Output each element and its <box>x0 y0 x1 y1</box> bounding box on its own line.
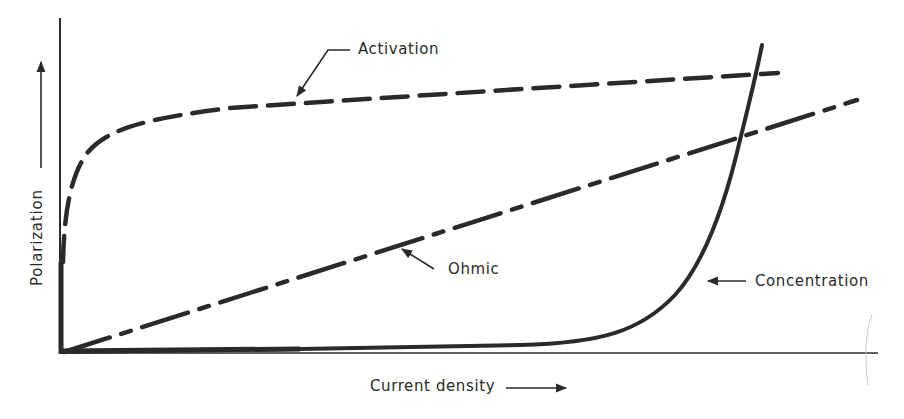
ohmic-pointer-arrow-icon <box>402 249 434 269</box>
concentration-label: Concentration <box>755 272 869 290</box>
x-axis-label: Current density <box>370 377 495 395</box>
ohmic-line <box>64 100 857 352</box>
concentration-curve <box>62 45 762 352</box>
activation-curve <box>63 73 778 262</box>
polarization-diagram <box>0 0 904 419</box>
activation-label: Activation <box>358 40 439 58</box>
scan-artifact <box>866 315 872 385</box>
ohmic-label: Ohmic <box>448 260 499 278</box>
activation-pointer-arrow-icon <box>297 50 350 96</box>
concentration-curve-base <box>62 349 300 351</box>
y-axis-label: Polarization <box>28 189 46 286</box>
